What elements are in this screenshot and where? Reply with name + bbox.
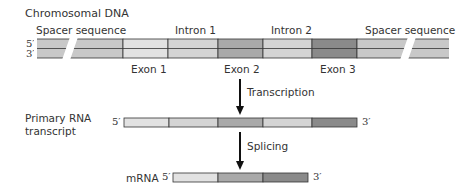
- diagram-canvas: [0, 0, 474, 193]
- bar-end-mask: [34, 37, 37, 60]
- segment-intron-1-1: [169, 118, 218, 127]
- splicing-arrow: [236, 132, 244, 170]
- transcription-arrow: [236, 79, 244, 115]
- segment-exon-1-0: [173, 173, 218, 182]
- segment-exon-3-4: [312, 118, 357, 127]
- dna-double-strand: [34, 37, 455, 60]
- primary-rna-bar: [124, 118, 357, 127]
- segment-exon-2-2: [218, 118, 263, 127]
- segment-exon-1-0: [124, 118, 169, 127]
- segment-exon-3-2: [263, 173, 308, 182]
- segment-exon-2-1: [218, 173, 263, 182]
- bar-end-mask: [449, 37, 455, 60]
- mrna-bar: [173, 173, 308, 182]
- segment-intron-2-3: [263, 118, 312, 127]
